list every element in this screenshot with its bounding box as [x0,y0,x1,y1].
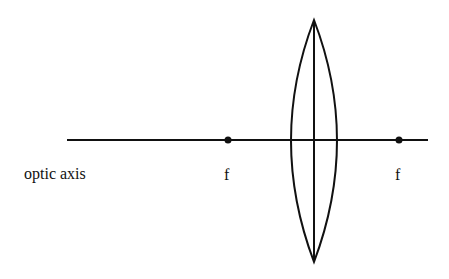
lens-diagram [0,0,449,279]
focal-point-left [225,137,232,144]
optic-axis-label: optic axis [24,166,86,182]
focal-label-left: f [224,167,229,183]
focal-point-right [396,137,403,144]
focal-label-right: f [395,167,400,183]
